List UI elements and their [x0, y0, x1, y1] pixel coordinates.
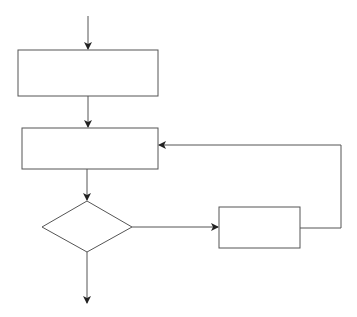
process-box-1 — [18, 50, 158, 96]
process-box-2 — [22, 128, 158, 169]
decision-diamond — [42, 201, 132, 252]
process-box-3 — [219, 207, 300, 248]
flowchart — [0, 0, 357, 317]
